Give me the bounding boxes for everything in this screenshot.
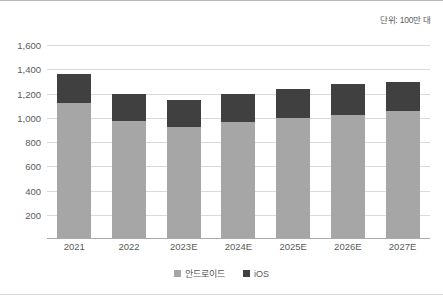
bar-segment-ios[interactable] — [167, 100, 201, 127]
bar-column[interactable] — [331, 45, 365, 239]
bar-column[interactable] — [221, 45, 255, 239]
bar-column[interactable] — [276, 45, 310, 239]
chart-legend: 안드로이드iOS — [0, 267, 443, 280]
bar-series-group — [47, 45, 430, 239]
bar-segment-ios[interactable] — [386, 82, 420, 111]
bar-segment-android[interactable] — [276, 118, 310, 239]
bar-segment-ios[interactable] — [57, 74, 91, 103]
bar-segment-ios[interactable] — [221, 94, 255, 122]
x-axis-tick-label: 2026E — [331, 241, 365, 252]
y-axis-tick-label: 1,000 — [17, 112, 41, 123]
bar-segment-android[interactable] — [112, 121, 146, 239]
y-axis-tick-label: 600 — [25, 161, 41, 172]
y-axis-tick-label: 400 — [25, 185, 41, 196]
x-axis-tick-label: 2022 — [112, 241, 146, 252]
x-axis-tick-label: 2024E — [221, 241, 255, 252]
y-axis-tick-label: 1,200 — [17, 88, 41, 99]
x-axis-tick-label: 2021 — [57, 241, 91, 252]
bar-segment-ios[interactable] — [112, 94, 146, 122]
bar-column[interactable] — [386, 45, 420, 239]
bar-segment-android[interactable] — [57, 103, 91, 239]
unit-annotation: 단위: 100만 대 — [380, 13, 431, 25]
x-axis-labels: 202120222023E2024E2025E2026E2027E — [47, 241, 430, 257]
bar-segment-ios[interactable] — [276, 89, 310, 118]
legend-label: 안드로이드 — [185, 267, 225, 280]
legend-item[interactable]: iOS — [243, 269, 269, 279]
legend-swatch-icon — [243, 270, 250, 277]
bar-segment-android[interactable] — [386, 111, 420, 239]
bar-segment-android[interactable] — [167, 127, 201, 239]
bar-column[interactable] — [112, 45, 146, 239]
legend-label: iOS — [254, 269, 269, 279]
y-axis-tick-label: 200 — [25, 209, 41, 220]
legend-item[interactable]: 안드로이드 — [174, 267, 225, 280]
x-axis-tick-label: 2025E — [276, 241, 310, 252]
x-axis-line — [47, 238, 430, 239]
plot-area: 1,6001,4001,2001,000800600400200 — [47, 45, 430, 239]
x-axis-tick-label: 2027E — [386, 241, 420, 252]
chart-container: 단위: 100만 대 1,6001,4001,2001,000800600400… — [0, 0, 443, 295]
bar-segment-ios[interactable] — [331, 84, 365, 115]
bar-column[interactable] — [167, 45, 201, 239]
legend-swatch-icon — [174, 270, 181, 277]
bar-column[interactable] — [57, 45, 91, 239]
bar-segment-android[interactable] — [331, 115, 365, 239]
y-axis-tick-label: 800 — [25, 137, 41, 148]
x-axis-tick-label: 2023E — [167, 241, 201, 252]
bar-segment-android[interactable] — [221, 122, 255, 239]
y-axis-tick-label: 1,400 — [17, 64, 41, 75]
y-axis-tick-label: 1,600 — [17, 40, 41, 51]
